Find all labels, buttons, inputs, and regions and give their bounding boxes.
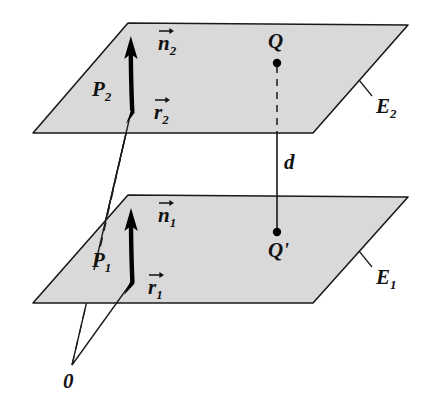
normal-vector-sub-n1: 1 <box>170 215 177 230</box>
plane-base-e2: E <box>376 94 390 118</box>
distance-label-d: d <box>284 152 295 173</box>
normal-vector-base-n1: n <box>158 203 170 227</box>
point-sub-p2: 2 <box>105 89 112 104</box>
vector-glyph-r1: r <box>148 277 156 298</box>
point-label-q: Q <box>268 31 283 52</box>
normal-vector-label-n2: n 2 <box>158 33 176 54</box>
point-label-p1: P1 <box>92 250 111 271</box>
point-sub-p1: 1 <box>105 260 112 275</box>
upper-plane-surface <box>33 23 408 133</box>
position-vector-base-r2: r <box>154 100 162 124</box>
plane-label-e1: E1 <box>376 267 397 288</box>
vector-glyph-r2: r <box>154 102 162 123</box>
normal-vector-sub-n2: 2 <box>170 43 177 58</box>
normal-vector-shaft-n2 <box>131 55 132 110</box>
point-base-p2: P <box>92 77 105 101</box>
diagram-canvas <box>0 0 433 404</box>
position-vector-base-r1: r <box>148 275 156 299</box>
plane-sub-e1: 1 <box>390 277 397 292</box>
upper-plane-leader-line <box>359 80 372 96</box>
plane-sub-e2: 2 <box>390 106 397 121</box>
lower-plane-surface <box>33 195 408 303</box>
point-marker-q-prime <box>273 228 281 236</box>
vector-glyph-n1: n <box>158 205 170 226</box>
point-label-p2: P2 <box>92 79 111 100</box>
normal-vector-base-n2: n <box>158 31 170 55</box>
point-base-p1: P <box>92 248 105 272</box>
normal-vector-label-n1: n 1 <box>158 205 176 226</box>
plane-base-e1: E <box>376 265 390 289</box>
point-marker-q <box>273 59 281 67</box>
lower-plane-leader-line <box>359 251 372 267</box>
origin-label: 0 <box>63 371 74 392</box>
normal-vector-shaft-n1 <box>131 228 132 282</box>
position-vector-sub-r1: 1 <box>156 287 163 302</box>
position-vector-label-r1: r 1 <box>148 277 163 298</box>
plane-distance-diagram: n 2 P2 r 2 Q E2 d n 1 P1 <box>0 0 433 404</box>
position-vector-label-r2: r 2 <box>154 102 169 123</box>
position-vector-sub-r2: 2 <box>162 112 169 127</box>
vector-glyph-n2: n <box>158 33 170 54</box>
plane-label-e2: E2 <box>376 96 397 117</box>
point-label-q-prime: Q' <box>268 240 289 261</box>
